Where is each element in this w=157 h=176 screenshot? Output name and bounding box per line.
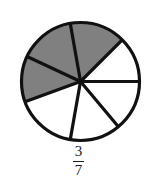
fraction: 3 7 [73,144,85,176]
fraction-numerator: 3 [73,144,85,160]
fraction-label: 3 7 [0,144,157,176]
fraction-figure: 3 7 [0,0,157,176]
fraction-denominator: 7 [73,163,85,176]
